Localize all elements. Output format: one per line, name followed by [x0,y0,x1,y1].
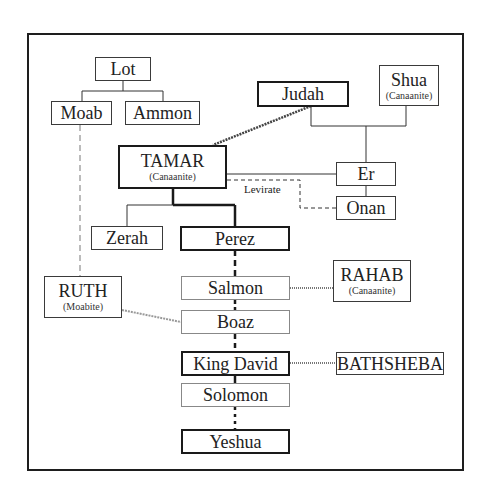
node-name: King David [193,355,278,373]
node-moab: Moab [51,101,112,125]
node-rahab: RAHAB (Canaanite) [333,260,411,302]
node-name: RAHAB [340,266,403,284]
node-boaz: Boaz [181,310,290,334]
node-name: RUTH [59,282,108,300]
node-name: Perez [215,230,255,248]
node-name: Lot [111,60,136,78]
node-lot: Lot [95,57,151,81]
node-name: TAMAR [141,152,205,170]
node-name: Yeshua [209,433,261,451]
node-ammon: Ammon [125,101,200,125]
node-salmon: Salmon [181,276,290,300]
node-onan: Onan [336,196,396,220]
node-name: Moab [61,104,103,122]
node-name: Salmon [208,279,263,297]
connector-ruth-boaz [122,310,181,322]
node-note: (Moabite) [63,302,103,312]
node-name: BATHSHEBA [337,355,443,373]
node-name: Ammon [133,104,192,122]
node-ruth: RUTH (Moabite) [44,276,122,318]
node-zerah: Zerah [91,226,163,250]
node-judah: Judah [257,81,349,107]
node-king-david: King David [181,351,290,376]
node-name: Er [358,165,375,183]
node-name: Shua [391,71,427,89]
connector-judah-tamar [213,106,311,145]
node-solomon: Solomon [181,383,290,407]
node-name: Solomon [203,386,268,404]
levirate-label: Levirate [244,183,281,195]
node-note: (Canaanite) [386,91,433,101]
node-name: Onan [347,199,386,217]
node-shua: Shua (Canaanite) [379,65,439,106]
node-tamar: TAMAR (Canaanite) [118,145,227,189]
node-name: Judah [282,85,324,103]
node-name: Zerah [106,229,148,247]
node-name: Boaz [217,313,254,331]
node-er: Er [336,162,396,186]
node-bathsheba: BATHSHEBA [336,352,444,375]
node-yeshua: Yeshua [181,429,290,454]
node-note: (Canaanite) [149,172,196,182]
node-note: (Canaanite) [349,286,396,296]
node-perez: Perez [180,226,290,251]
